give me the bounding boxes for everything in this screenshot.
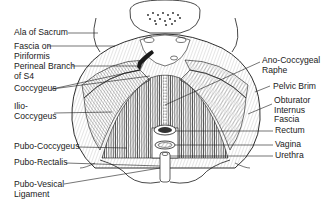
label-ala-of-sacrum: Ala of Sacrum (14, 28, 68, 38)
label-coccygeus: Coccygeus (14, 84, 57, 94)
label-urethra: Urethra (275, 151, 304, 161)
sacrum (130, 0, 200, 33)
label-pubo-coccygeus: Pubo-Coccygeus (14, 142, 79, 152)
label-pelvic-brim: Pelvic Brim (273, 82, 316, 92)
label-pubo-vesical-ligament: Pubo-Vesical Ligament (14, 180, 64, 199)
urethra-structure (160, 152, 170, 182)
label-fascia-on-piriformis: Fascia on Piriformis (14, 42, 51, 61)
label-ilio-coccygeus: Ilio- Coccygeus (14, 102, 57, 121)
label-rectum: Rectum (275, 126, 305, 136)
label-vagina: Vagina (275, 140, 301, 150)
label-obturator-internus-fascia: Obturator Internus Fascia (274, 96, 310, 125)
label-ano-coccygeal-raphe: Ano-Coccygeal Raphe (262, 56, 320, 75)
pelvic-floor-diagram: Ala of Sacrum Fascia on Piriformis Perin… (0, 0, 331, 209)
label-pubo-rectalis: Pubo-Rectalis (14, 158, 68, 168)
label-perineal-branch-s4: Perineal Branch of S4 (14, 62, 75, 81)
